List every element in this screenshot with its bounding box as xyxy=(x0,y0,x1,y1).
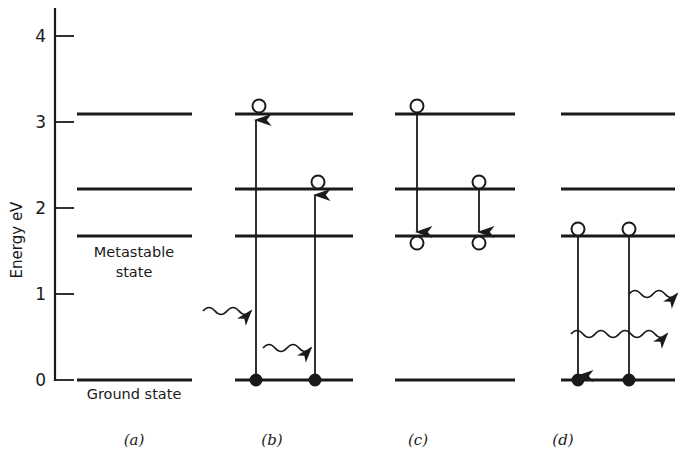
panel-d: (d) xyxy=(552,114,677,449)
y-tick-label-4: 4 xyxy=(35,26,46,46)
panel-c-electron-open-2_2 xyxy=(473,176,486,189)
panel-d-electron-filled-ground-2 xyxy=(624,375,635,386)
panel-c-electron-open-3_07 xyxy=(411,100,424,113)
panel-b-electron-open-3_07 xyxy=(253,100,266,113)
y-tick-label-2: 2 xyxy=(35,198,46,218)
panel-d-electron-open-1_65-2 xyxy=(623,223,636,236)
panel-label-b: (b) xyxy=(261,431,282,449)
panel-b-electron-filled-ground-1 xyxy=(251,375,262,386)
y-tick-label-1: 1 xyxy=(35,284,46,304)
panel-label-c: (c) xyxy=(408,431,428,449)
panel-label-d: (d) xyxy=(552,431,573,449)
y-axis-label: Energy eV xyxy=(8,201,26,279)
panel-a: Metastable state Ground state (a) xyxy=(77,114,192,449)
panel-c-electron-open-1_65-2 xyxy=(473,237,486,250)
metastable-state-label-line1: Metastable xyxy=(94,244,174,260)
y-tick-label-3: 3 xyxy=(35,112,46,132)
panel-b-incoming-photon-wave-2 xyxy=(263,345,311,352)
metastable-state-label-line2: state xyxy=(116,264,153,280)
panel-label-a: (a) xyxy=(124,431,145,449)
energy-level-diagram-canvas: 4 3 2 1 0 Energy eV Metastable xyxy=(0,0,689,464)
ground-state-label: Ground state xyxy=(87,386,182,402)
panel-c-electron-open-1_65-1 xyxy=(411,237,424,250)
panel-d-electron-open-1_65-1 xyxy=(572,223,585,236)
panel-d-electron-filled-ground-1 xyxy=(573,375,584,386)
panel-b: (b) xyxy=(203,100,353,450)
y-axis: 4 3 2 1 0 Energy eV xyxy=(8,8,74,390)
panel-d-emitted-photon-wave-2 xyxy=(571,331,667,338)
panel-c: (c) xyxy=(395,100,515,450)
panel-b-electron-open-2_2 xyxy=(312,176,325,189)
y-tick-label-0: 0 xyxy=(35,370,46,390)
panel-d-emitted-photon-wave-1 xyxy=(629,291,677,298)
panel-b-electron-filled-ground-2 xyxy=(310,375,321,386)
energy-level-diagram-figure: 4 3 2 1 0 Energy eV Metastable xyxy=(0,0,689,464)
panel-b-incoming-photon-wave-1 xyxy=(203,308,251,315)
